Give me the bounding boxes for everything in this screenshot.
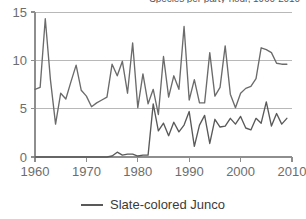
x-tick-label-1980: 1980 [123,164,152,179]
x-axis-tick-labels: 196019701980199020002010 [21,164,306,179]
tick-marks [31,12,292,162]
x-tick-label-2010: 2010 [278,164,306,179]
series-line-slate-colored-junco [35,102,287,157]
line-chart-svg: 051015 196019701980199020002010 [0,0,306,190]
gridlines [35,12,292,157]
legend-label: Slate-colored Junco [110,197,225,212]
y-tick-label-5: 5 [20,101,27,116]
series-lines [35,19,287,157]
x-tick-label-1960: 1960 [21,164,50,179]
axes [35,12,292,157]
x-tick-label-1990: 1990 [175,164,204,179]
y-tick-label-15: 15 [13,5,27,20]
y-tick-label-10: 10 [13,53,27,68]
y-tick-label-0: 0 [20,150,27,165]
x-tick-label-2000: 2000 [226,164,255,179]
y-axis-tick-labels: 051015 [13,5,27,165]
legend-line-swatch-icon [81,204,103,206]
chart-legend: Slate-colored Junco [0,190,306,219]
legend-entry-slate-colored-junco: Slate-colored Junco [81,197,225,212]
plot-area: 051015 196019701980199020002010 [0,0,306,190]
chart-figure: Species per party-hour, 1960-2010 051015… [0,0,306,219]
x-tick-label-1970: 1970 [72,164,101,179]
